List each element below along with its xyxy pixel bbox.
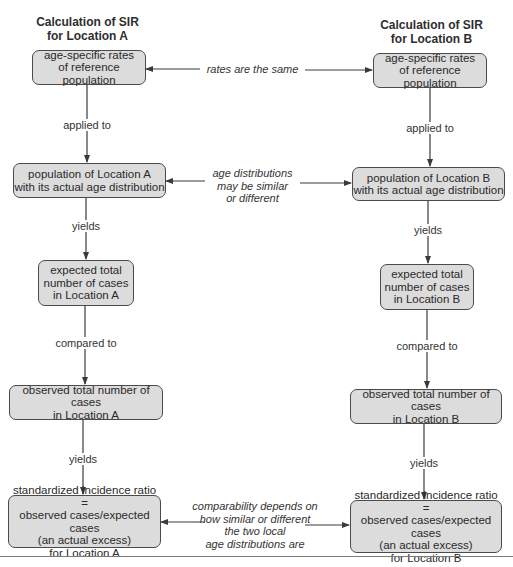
connector-a-yields-2: yields [63, 453, 103, 465]
note-comparability: comparability depends on how similar or … [185, 500, 325, 550]
box-a-reference-rates: age-specific rates of reference populati… [32, 50, 146, 85]
column-a-title: Calculation of SIR for Location A [20, 15, 155, 43]
box-b-observed-cases: observed total number of cases in Locati… [350, 389, 502, 424]
box-a-population: population of Location A with its actual… [13, 163, 166, 198]
connector-b-applied-to: applied to [400, 122, 460, 134]
box-a-sir: standardized incidence ratio = observed … [8, 495, 161, 548]
note-age-distributions: age distributions may be similar or diff… [200, 167, 305, 205]
note-rates-same: rates are the same [200, 63, 305, 76]
connector-b-compared-to: compared to [393, 340, 461, 352]
connector-a-yields-1: yields [66, 220, 106, 232]
box-b-expected-cases: expected total number of cases in Locati… [380, 264, 474, 310]
column-b-title: Calculation of SIR for Location B [364, 18, 499, 46]
box-b-sir: standardized incidence ratio = observed … [350, 500, 502, 553]
connector-a-applied-to: applied to [57, 119, 117, 131]
box-a-observed-cases: observed total number of cases in Locati… [9, 385, 163, 420]
bottom-divider [0, 556, 513, 557]
connector-b-yields-1: yields [408, 224, 448, 236]
connector-b-yields-2: yields [404, 457, 444, 469]
box-a-expected-cases: expected total number of cases in Locati… [38, 260, 134, 306]
box-b-population: population of Location B with its actual… [352, 167, 505, 201]
box-b-reference-rates: age-specific rates of reference populati… [373, 53, 487, 88]
connector-a-compared-to: compared to [52, 337, 120, 349]
